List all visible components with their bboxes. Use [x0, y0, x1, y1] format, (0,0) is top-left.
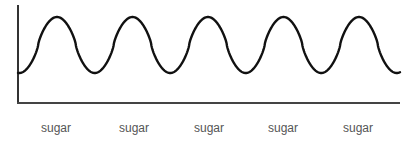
x-label-sugar: sugar	[104, 121, 164, 135]
x-label-sugar: sugar	[328, 121, 388, 135]
sugar-wave-curve	[18, 17, 400, 73]
sugar-wave-diagram	[0, 0, 418, 141]
x-label-sugar: sugar	[26, 121, 86, 135]
x-label-sugar: sugar	[253, 121, 313, 135]
x-label-sugar: sugar	[179, 121, 239, 135]
